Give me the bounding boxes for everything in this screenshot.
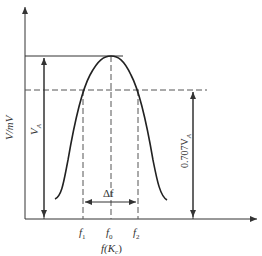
y-axis-label: V/mV bbox=[3, 114, 15, 140]
half-power-label: 0.707VA bbox=[179, 133, 193, 168]
tick-f2: f2 bbox=[133, 226, 140, 241]
x-axis-label: f(Kc) bbox=[101, 242, 122, 256]
resonance-diagram: V/mV VA 0.707VA Δf f1 f0 f2 f(Kc) bbox=[0, 0, 262, 256]
bandwidth-label: Δf bbox=[103, 187, 114, 199]
tick-f0: f0 bbox=[106, 226, 113, 241]
tick-f1: f1 bbox=[79, 226, 86, 241]
peak-label: VA bbox=[28, 123, 43, 135]
